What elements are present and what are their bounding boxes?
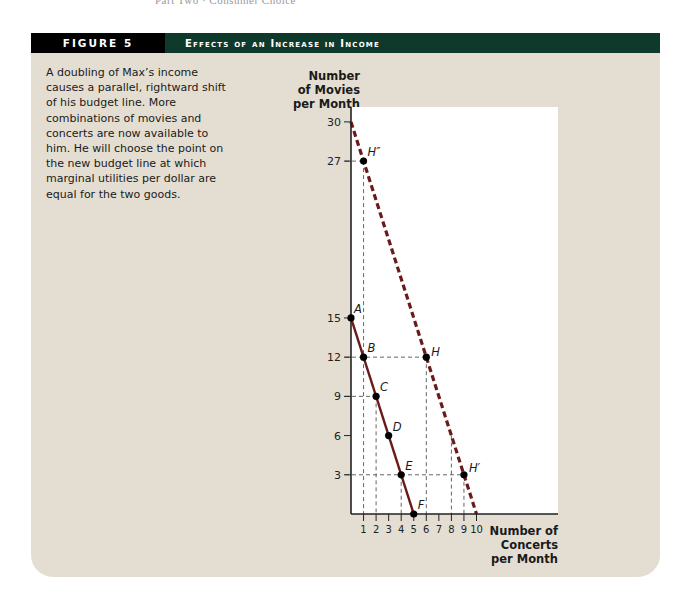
point-label: H′ <box>469 461 481 475</box>
data-point <box>398 471 405 478</box>
point-label: B <box>368 341 376 355</box>
x-tick-label: 3 <box>385 524 391 535</box>
x-tick-label: 8 <box>448 524 454 535</box>
y-tick-label: 12 <box>327 351 341 364</box>
point-label: A <box>353 302 362 316</box>
y-tick-label: 30 <box>327 116 341 129</box>
x-tick-label: 10 <box>470 524 483 535</box>
point-label: H <box>431 345 440 359</box>
y-tick-label: 3 <box>334 469 341 482</box>
x-tick-label: 9 <box>461 524 467 535</box>
y-tick-label: 9 <box>334 390 341 403</box>
x-tick-label: 5 <box>411 524 417 535</box>
data-point <box>423 354 430 361</box>
point-label: C <box>380 380 388 394</box>
x-tick-label: 1 <box>360 524 366 535</box>
y-tick-label: 6 <box>334 430 341 443</box>
x-tick-label: 7 <box>436 524 442 535</box>
x-tick-label: 2 <box>373 524 379 535</box>
point-label: E <box>405 459 413 473</box>
data-point <box>385 432 392 439</box>
data-point <box>460 471 467 478</box>
point-label: D <box>393 420 402 434</box>
data-point <box>373 393 380 400</box>
plot-area <box>351 107 558 514</box>
y-tick-label: 15 <box>327 312 341 325</box>
x-tick-label: 6 <box>423 524 429 535</box>
data-point <box>410 510 417 517</box>
x-tick-label: 4 <box>398 524 404 535</box>
point-label: H″ <box>368 145 382 159</box>
point-label: F <box>418 498 425 512</box>
data-point <box>360 354 367 361</box>
budget-line-chart: 3691215273012345678910ABCDEFH″HH′ <box>0 0 686 604</box>
data-point <box>360 158 367 165</box>
y-tick-label: 27 <box>327 155 341 168</box>
